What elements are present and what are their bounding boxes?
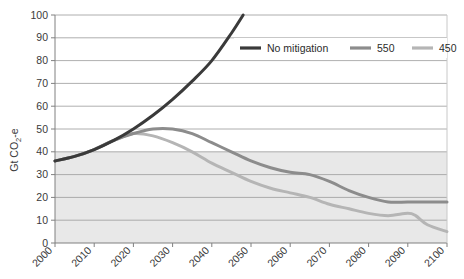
y-tick-label: 80 [36,54,48,66]
y-tick-label: 100 [30,9,48,21]
x-tick-label: 2040 [186,244,211,269]
x-tick-label-group: 2100 [421,244,446,269]
x-tick-label-group: 2010 [69,244,94,269]
legend-label: No mitigation [267,42,328,54]
y-tick-label: 90 [36,31,48,43]
y-tick-label: 30 [36,168,48,180]
x-tick-label-group: 2080 [343,244,368,269]
x-tick-label-group: 2070 [304,244,329,269]
y-axis-title-suffix: -e [8,128,20,137]
chart-canvas: 0102030405060708090100 20002010202020302… [0,0,464,279]
y-tick-label: 40 [36,145,48,157]
legend-label: 450 [439,42,457,54]
chart-legend: No mitigation550450 [234,38,457,58]
x-tick-label: 2000 [29,244,54,269]
legend-label: 550 [377,42,395,54]
emissions-chart: 0102030405060708090100 20002010202020302… [0,0,464,279]
x-tick-label-group: 2040 [186,244,211,269]
x-axis-ticks: 2000201020202030204020502060207020802090… [29,243,447,269]
y-tick-label: 50 [36,123,48,135]
y-axis-title-prefix: Gt CO [8,142,20,172]
y-axis-title: Gt CO2-e [8,128,23,171]
x-tick-label-group: 2030 [147,244,172,269]
x-tick-label: 2010 [69,244,94,269]
x-tick-label: 2020 [108,244,133,269]
x-tick-label: 2080 [343,244,368,269]
y-tick-label: 20 [36,191,48,203]
x-tick-label: 2100 [421,244,446,269]
x-tick-label: 2030 [147,244,172,269]
x-tick-label: 2070 [304,244,329,269]
y-tick-label: 10 [36,214,48,226]
x-tick-label-group: 2000 [29,244,54,269]
x-tick-label-group: 2050 [225,244,250,269]
y-axis-ticks: 0102030405060708090100 [30,9,55,249]
x-tick-label: 2060 [265,244,290,269]
x-tick-label-group: 2060 [265,244,290,269]
x-tick-label-group: 2090 [382,244,407,269]
svg-text:Gt CO2-e: Gt CO2-e [8,128,23,171]
x-tick-label-group: 2020 [108,244,133,269]
y-tick-label: 70 [36,77,48,89]
x-tick-label: 2050 [225,244,250,269]
x-tick-label: 2090 [382,244,407,269]
y-tick-label: 60 [36,100,48,112]
